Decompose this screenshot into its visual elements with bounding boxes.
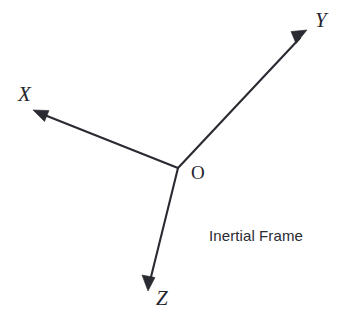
z-axis-line bbox=[150, 168, 178, 281]
x-axis-arrowhead-icon bbox=[33, 110, 49, 122]
z-axis-arrow bbox=[142, 168, 178, 291]
axes-drawing bbox=[0, 0, 351, 315]
inertial-frame-caption: Inertial Frame bbox=[209, 228, 303, 243]
y-axis-line bbox=[178, 38, 300, 168]
y-axis-arrowhead-icon bbox=[291, 30, 307, 44]
inertial-frame-figure: X Y Z O Inertial Frame bbox=[0, 0, 351, 315]
z-axis-arrowhead-icon bbox=[142, 275, 155, 291]
axis-label-x: X bbox=[18, 84, 31, 105]
axis-label-y: Y bbox=[315, 10, 327, 31]
x-axis-line bbox=[42, 114, 178, 168]
y-axis-arrow bbox=[178, 30, 307, 168]
origin-label-o: O bbox=[191, 163, 205, 182]
axis-label-z: Z bbox=[156, 288, 168, 309]
x-axis-arrow bbox=[33, 110, 178, 168]
